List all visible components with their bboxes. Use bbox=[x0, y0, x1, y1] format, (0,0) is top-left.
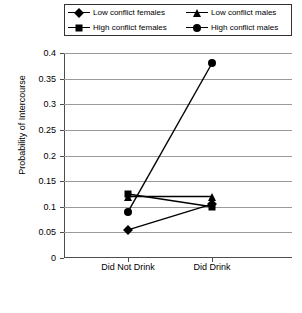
y-axis-tick-label: 0.3 bbox=[26, 100, 56, 109]
legend-item-high-conflict-males: High conflict males bbox=[183, 23, 293, 33]
data-point-triangle bbox=[208, 193, 216, 201]
y-axis-tick-label: 0.35 bbox=[26, 74, 56, 83]
legend-label-low-conflict-males: Low conflict males bbox=[211, 8, 276, 17]
chart-figure: Low conflict females Low conflict males … bbox=[0, 0, 302, 313]
legend-key-square bbox=[68, 23, 90, 33]
series-line bbox=[128, 204, 212, 230]
legend-label-high-conflict-males: High conflict males bbox=[211, 23, 278, 32]
y-axis-tick-label: 0.05 bbox=[26, 228, 56, 237]
chart-legend: Low conflict females Low conflict males … bbox=[64, 4, 292, 36]
y-axis-tick-label: 0.4 bbox=[26, 49, 56, 58]
y-axis-tick-label: 0.1 bbox=[26, 202, 56, 211]
y-axis-tick bbox=[60, 258, 64, 259]
data-point-circle bbox=[124, 208, 132, 216]
series-lines bbox=[64, 53, 292, 258]
data-point-circle bbox=[208, 59, 216, 67]
legend-label-low-conflict-females: Low conflict females bbox=[93, 8, 165, 17]
data-point-square bbox=[209, 203, 216, 210]
legend-key-diamond bbox=[68, 8, 90, 18]
legend-item-low-conflict-females: Low conflict females bbox=[65, 8, 183, 18]
y-axis-tick-label: 0.25 bbox=[26, 125, 56, 134]
legend-key-triangle bbox=[186, 8, 208, 18]
legend-item-low-conflict-males: Low conflict males bbox=[183, 8, 293, 18]
data-point-triangle bbox=[124, 193, 132, 201]
x-axis-tick-label: Did Not Drink bbox=[101, 262, 155, 272]
legend-label-high-conflict-females: High conflict females bbox=[93, 23, 167, 32]
y-axis-tick-label: 0 bbox=[26, 254, 56, 263]
y-axis-tick-label: 0.15 bbox=[26, 177, 56, 186]
y-axis-tick-label: 0.2 bbox=[26, 151, 56, 160]
plot-area bbox=[64, 53, 292, 258]
legend-key-circle bbox=[186, 23, 208, 33]
series-line bbox=[128, 63, 212, 212]
y-axis-tick-labels: 00.050.10.150.20.250.30.350.4 bbox=[20, 0, 56, 313]
legend-item-high-conflict-females: High conflict females bbox=[65, 23, 183, 33]
x-axis-tick-label: Did Drink bbox=[193, 262, 230, 272]
